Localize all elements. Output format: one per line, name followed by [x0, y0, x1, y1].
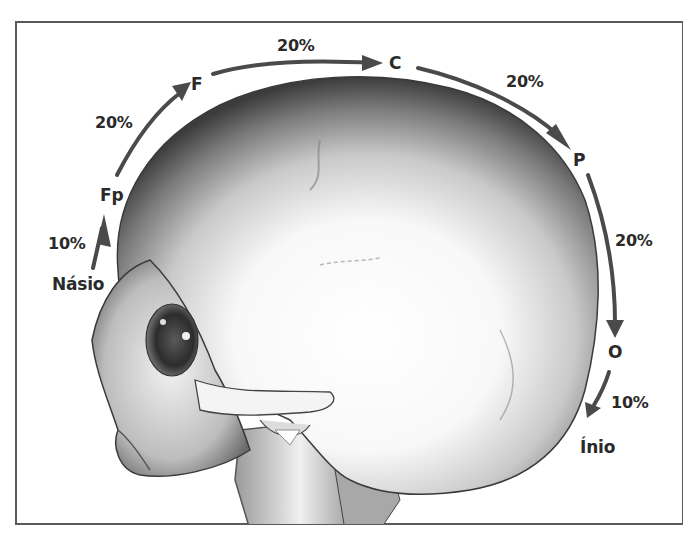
segment-label-f-c: 20% — [277, 38, 315, 54]
arrow-o-inio — [594, 372, 609, 405]
label-c: C — [389, 55, 401, 72]
segment-label-nasion-fp: 10% — [48, 236, 86, 252]
label-inio: Ínio — [580, 439, 615, 456]
label-f: F — [191, 76, 202, 93]
segment-label-o-inio: 10% — [611, 395, 649, 411]
skull-illustration — [0, 0, 694, 543]
segment-label-c-p: 20% — [506, 74, 544, 90]
arrowhead-o-icon — [606, 320, 624, 338]
arrowhead-c-icon — [362, 55, 383, 71]
label-o: O — [608, 344, 622, 361]
arrowhead-fp-icon — [97, 214, 111, 247]
segment-label-p-o: 20% — [615, 233, 653, 249]
label-fp: Fp — [100, 187, 123, 204]
arrow-f-c — [213, 61, 373, 74]
segment-label-fp-f: 20% — [95, 115, 133, 131]
orbit — [146, 304, 198, 376]
label-nasion: Násio — [52, 276, 104, 293]
label-p: P — [573, 152, 585, 169]
